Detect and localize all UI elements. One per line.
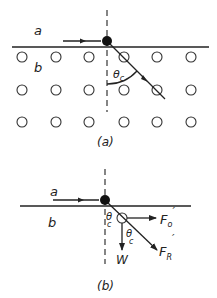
caption-a: (a) xyxy=(97,135,114,149)
lattice-atom xyxy=(186,52,196,62)
diagram-b: a b θc θc Fo′ W FR′ (b) xyxy=(20,169,191,293)
theta-c-label-a: θc xyxy=(113,68,125,83)
force-F0-label: Fo′ xyxy=(160,205,175,229)
lattice-atom-b xyxy=(117,213,127,223)
medium-a-label-b: a xyxy=(50,184,58,199)
arrowhead-icon xyxy=(78,198,84,203)
lattice-atom xyxy=(186,117,196,127)
caption-b: (b) xyxy=(97,279,114,293)
lattice-atom xyxy=(152,52,162,62)
medium-b-label: b xyxy=(34,60,42,75)
lattice-atom xyxy=(51,117,61,127)
lattice-atom xyxy=(17,117,27,127)
lattice-atom xyxy=(51,52,61,62)
lattice-atom xyxy=(84,52,94,62)
lattice-atom xyxy=(51,85,61,95)
lattice-atom xyxy=(119,52,129,62)
theta-c-label-b2: θc xyxy=(126,228,134,246)
force-FR-label: FR′ xyxy=(159,232,175,262)
lattice-atom xyxy=(119,117,129,127)
lattice-atom xyxy=(152,117,162,127)
lattice-atom xyxy=(186,85,196,95)
lattice-atom xyxy=(17,85,27,95)
theta-c-label-b1: θc xyxy=(106,211,112,229)
arrowhead-icon xyxy=(80,39,86,44)
lattice-atom xyxy=(152,85,162,95)
medium-a-label: a xyxy=(34,23,42,38)
lattice-atom xyxy=(84,85,94,95)
force-W-label: W xyxy=(116,253,129,267)
lattice-atom xyxy=(84,117,94,127)
lattice-atom xyxy=(17,52,27,62)
medium-b-label-b: b xyxy=(48,215,56,230)
lattice-atom xyxy=(119,85,129,95)
refraction-diagram: a b θc (a) a b θc θc Fo′ W FR′ (b) xyxy=(0,0,217,298)
diagram-a: a b θc (a) xyxy=(12,10,209,149)
